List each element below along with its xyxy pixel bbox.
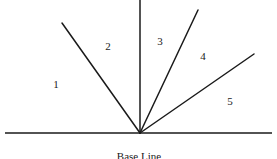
ray-c	[140, 10, 198, 133]
region-label-1: 1	[53, 79, 59, 90]
region-label-2: 2	[105, 41, 111, 52]
region-label-3: 3	[157, 36, 163, 47]
diagram-canvas	[0, 0, 277, 159]
ray-d	[140, 54, 254, 133]
ray-a	[62, 23, 140, 133]
region-label-5: 5	[227, 96, 233, 107]
baseline-caption: Base Line	[117, 151, 161, 159]
angle-regions-figure: 1 2 3 4 5 Base Line	[0, 0, 277, 159]
region-label-4: 4	[200, 51, 206, 62]
